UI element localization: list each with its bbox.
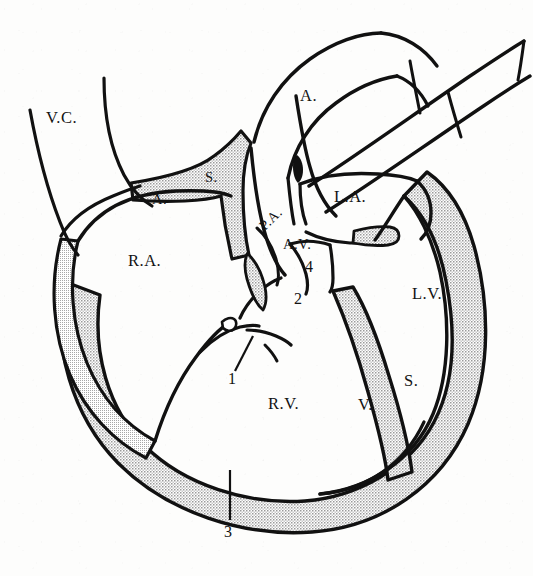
heart-diagram-illustration xyxy=(0,0,533,576)
label-left-atrium: L.A. xyxy=(334,189,366,206)
right-atrium-floor xyxy=(155,322,230,441)
label-atrioventricular-valve: A.V. xyxy=(283,237,311,252)
callout-4-label: 4 xyxy=(305,259,313,275)
av-valve-leaflet-right xyxy=(330,245,333,292)
label-left-ventricle: L.V. xyxy=(412,286,442,303)
label-ventricular-septum-v: V. xyxy=(358,397,373,414)
rv-trabecula-stub xyxy=(222,318,236,331)
label-right-atrium: R.A. xyxy=(128,253,161,270)
left-atrium-left-wall xyxy=(300,184,306,224)
label-aorta: A. xyxy=(300,88,317,105)
callout-3-label: 3 xyxy=(224,524,232,540)
pulmonary-outflow-tip xyxy=(265,345,277,361)
interventricular-septum xyxy=(333,287,412,480)
pulmonary-outflow-stem xyxy=(247,330,291,345)
right-atrium-wall xyxy=(54,239,155,458)
callout-2-label: 2 xyxy=(294,291,302,307)
aortic-cusp-marker xyxy=(293,155,303,183)
heart-diagram-figure: V.C. A. A. S. P.A. L.A. A.V. 4 2 R.A. L.… xyxy=(0,0,533,576)
vena-cava-outer-wall xyxy=(30,110,78,255)
cut-vessel-upper-edge xyxy=(309,41,524,186)
label-atrial-septum-a: A. xyxy=(152,192,167,207)
label-atrial-septum-s: S. xyxy=(205,170,218,185)
label-vena-cava: V.C. xyxy=(46,110,77,127)
aortic-root-left xyxy=(288,178,294,224)
cut-vessel-end-cap-upper xyxy=(518,41,524,80)
label-ventricular-septum-s: S. xyxy=(404,373,418,390)
label-right-ventricle: R.V. xyxy=(268,396,299,413)
vena-cava-atrial-junction xyxy=(61,186,140,236)
cut-vessel-branch-tick-b xyxy=(410,61,420,113)
callout-1-label: 1 xyxy=(228,371,236,387)
callout-1-leader-line xyxy=(235,336,253,371)
